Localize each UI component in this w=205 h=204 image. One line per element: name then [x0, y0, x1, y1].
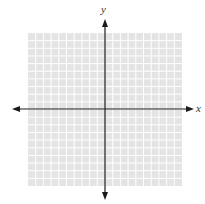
arrow-down-icon: [102, 192, 108, 200]
arrow-up-icon: [102, 19, 108, 27]
arrow-left-icon: [12, 106, 20, 112]
x-axis-label: x: [196, 103, 201, 114]
coordinate-plane: [0, 0, 205, 204]
arrow-right-icon: [186, 106, 194, 112]
y-axis-label: y: [101, 4, 106, 15]
